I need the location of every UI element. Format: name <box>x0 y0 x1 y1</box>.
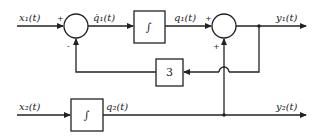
y2-label: y₂(t) <box>275 101 298 112</box>
feedback-line-left <box>76 39 156 72</box>
sum2-plus-sign-bottom: + <box>213 42 220 51</box>
sum2-plus-sign-top: + <box>205 14 212 23</box>
integral-icon-1: ∫ <box>146 21 152 34</box>
x1-label: x₁(t) <box>19 12 41 23</box>
q2-label: q₂(t) <box>106 101 128 112</box>
q1-dot-label: q̇₁(t) <box>93 12 115 23</box>
integral-icon-2: ∫ <box>84 109 90 122</box>
gain-value: 3 <box>166 66 173 79</box>
summing-junction-1 <box>64 14 88 38</box>
block-diagram: x₁(t) q̇₁(t) q₁(t) y₁(t) x₂(t) q₂(t) y₂(… <box>0 0 316 139</box>
sum1-plus-sign: + <box>57 14 64 23</box>
y2-junction-dot <box>222 113 226 117</box>
sum1-minus-sign: - <box>67 42 70 51</box>
x2-label: x₂(t) <box>19 101 41 112</box>
summing-junction-2 <box>212 14 236 38</box>
y1-junction-dot <box>257 24 261 28</box>
q1-label: q₁(t) <box>174 12 196 23</box>
y1-label: y₁(t) <box>275 12 298 23</box>
